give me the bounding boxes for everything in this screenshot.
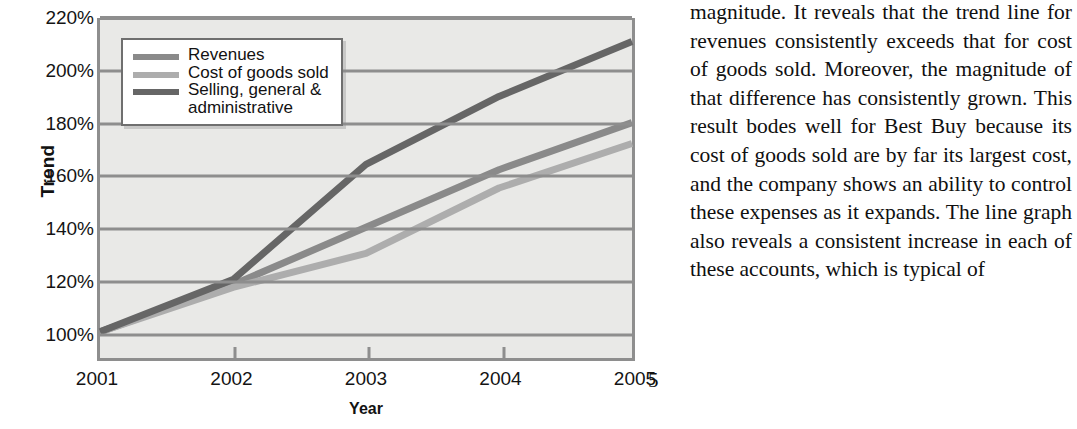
x-axis-tick-label: 2003 xyxy=(345,368,387,390)
chart-legend: RevenuesCost of goods soldSelling, gener… xyxy=(121,38,343,126)
legend-item: Revenues xyxy=(133,46,329,64)
gridline xyxy=(100,280,632,283)
x-axis-tick-label: 2002 xyxy=(210,368,252,390)
body-text-column: magnitude. It reveals that the trend lin… xyxy=(690,0,1072,284)
y-axis-tick-labels: 220%200%180%160%140%120%100% xyxy=(10,0,94,429)
x-axis-tick-mark xyxy=(368,347,371,358)
x-axis-tick-mark xyxy=(502,347,505,358)
legend-item: Cost of goods sold xyxy=(133,64,329,82)
y-axis-tick-label: 200% xyxy=(10,60,94,82)
y-axis-tick-label: 140% xyxy=(10,218,94,240)
body-paragraph: magnitude. It reveals that the trend lin… xyxy=(690,0,1072,284)
y-axis-tick-label: 160% xyxy=(10,165,94,187)
gridline xyxy=(100,16,632,20)
x-axis-tick-mark xyxy=(233,347,236,358)
legend-item-label: Selling, general & administrative xyxy=(188,81,321,116)
gridline xyxy=(100,175,632,178)
x-axis-title: Year xyxy=(97,400,635,418)
legend-swatch-icon xyxy=(133,72,179,78)
x-axis-tick-label: 2001 xyxy=(76,368,118,390)
legend-swatch-icon xyxy=(133,89,179,95)
legend-item-label: Revenues xyxy=(188,46,265,64)
x-axis-tick-label: 2004 xyxy=(479,368,521,390)
legend-item-label: Cost of goods sold xyxy=(188,64,329,82)
gridline xyxy=(100,333,632,336)
y-axis-tick-label: 120% xyxy=(10,271,94,293)
y-axis-tick-label: 180% xyxy=(10,113,94,135)
legend-swatch-icon xyxy=(133,54,179,60)
x-axis-tick-labels: 20012002200320042005 xyxy=(97,368,635,396)
page-root: Trend 220%200%180%160%140%120%100% 20012… xyxy=(0,0,1077,429)
legend-item: Selling, general & administrative xyxy=(133,81,329,116)
gridline xyxy=(100,228,632,231)
line-chart-figure: Trend 220%200%180%160%140%120%100% 20012… xyxy=(0,0,645,429)
y-axis-tick-label: 100% xyxy=(10,324,94,346)
y-axis-tick-label: 220% xyxy=(10,7,94,29)
page-number: 5 xyxy=(648,368,659,393)
